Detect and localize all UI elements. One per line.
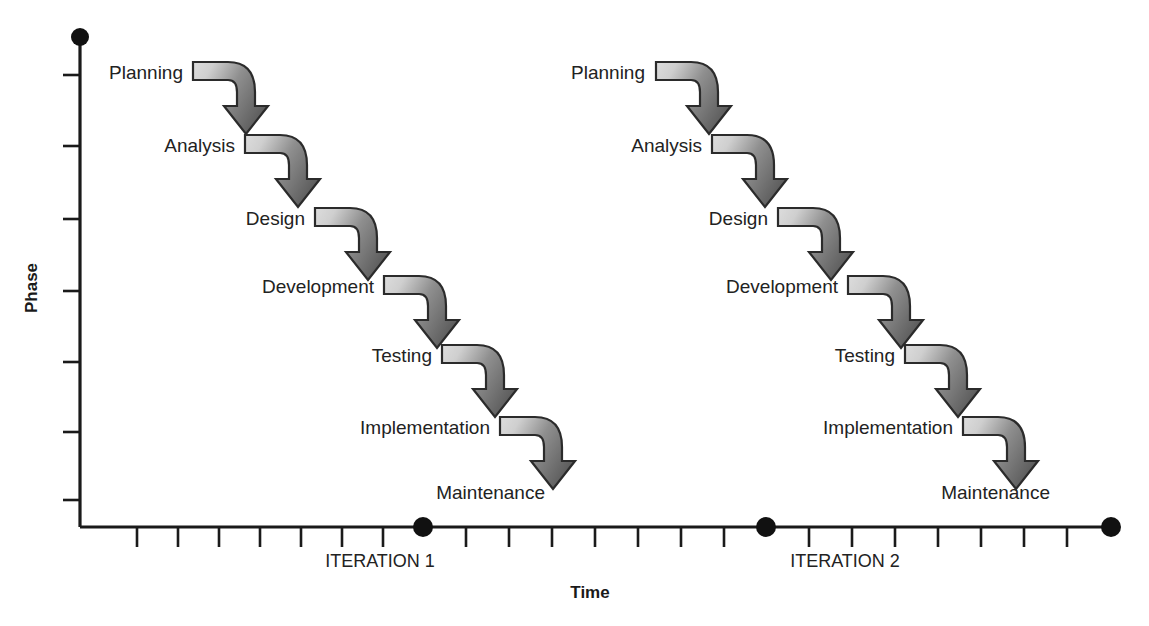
- arrow-analysis-to-design-2: [712, 135, 787, 207]
- arrow-design-to-development-2: [778, 208, 853, 280]
- arrow-analysis-to-design-1: [245, 135, 320, 207]
- arrow-testing-to-implementation-2: [905, 345, 980, 417]
- phase-label-analysis-2: Analysis: [631, 135, 702, 156]
- x-axis-title: Time: [570, 583, 609, 602]
- x-axis-ticks: [137, 527, 1067, 547]
- arrow-implementation-to-maintenance-1: [500, 417, 575, 489]
- waterfall-iteration-diagram: Phase Time ITERATION 1 ITERATION 2 Plann…: [0, 0, 1149, 626]
- y-axis-origin-dot: [71, 28, 89, 46]
- phase-label-analysis-1: Analysis: [164, 135, 235, 156]
- phase-label-planning-1: Planning: [109, 62, 183, 83]
- phase-label-design-1: Design: [246, 208, 305, 229]
- phase-label-testing-2: Testing: [835, 345, 895, 366]
- arrow-design-to-development-1: [315, 208, 390, 280]
- phase-label-testing-1: Testing: [372, 345, 432, 366]
- arrow-testing-to-implementation-1: [442, 345, 517, 417]
- phase-label-development-2: Development: [726, 276, 839, 297]
- iteration-1-end-dot: [413, 517, 433, 537]
- iteration-2-group: Planning Analysis Design Development Tes…: [571, 62, 1050, 503]
- axis-group: [63, 28, 1121, 547]
- arrow-development-to-testing-2: [848, 276, 923, 348]
- iteration-2-start-dot: [756, 517, 776, 537]
- iteration-1-label: ITERATION 1: [325, 551, 435, 571]
- diagram-canvas: Phase Time ITERATION 1 ITERATION 2 Plann…: [0, 0, 1149, 626]
- iteration-1-group: Planning Analysis Design Development Tes…: [109, 62, 575, 503]
- phase-label-maintenance-2: Maintenance: [941, 482, 1050, 503]
- phase-label-implementation-2: Implementation: [823, 417, 953, 438]
- phase-label-design-2: Design: [709, 208, 768, 229]
- arrow-planning-to-analysis-1: [193, 62, 268, 134]
- phase-label-implementation-1: Implementation: [360, 417, 490, 438]
- y-axis-ticks: [63, 75, 80, 500]
- timeline-end-dot: [1101, 517, 1121, 537]
- y-axis-title: Phase: [22, 263, 41, 313]
- phase-label-maintenance-1: Maintenance: [436, 482, 545, 503]
- phase-label-planning-2: Planning: [571, 62, 645, 83]
- phase-label-development-1: Development: [262, 276, 375, 297]
- arrow-implementation-to-maintenance-2: [963, 417, 1038, 489]
- iteration-2-label: ITERATION 2: [790, 551, 900, 571]
- arrow-development-to-testing-1: [384, 276, 459, 348]
- arrow-planning-to-analysis-2: [656, 62, 731, 134]
